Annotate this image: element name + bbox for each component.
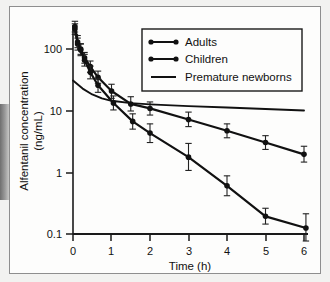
x-tick-label-6: 6 bbox=[301, 245, 307, 257]
y-axis-title-line2: (ng/mL) bbox=[32, 111, 44, 151]
x-tick-label-5: 5 bbox=[263, 245, 269, 257]
x-tick-label-2: 2 bbox=[147, 245, 153, 257]
y-axis-title-line1: Alfentanil concentration bbox=[18, 71, 30, 191]
pharmacokinetics-line-chart: 100 10 1 0.1 0 1 2 3 4 5 6 T bbox=[10, 7, 320, 273]
figure-container: 100 10 1 0.1 0 1 2 3 4 5 6 T bbox=[0, 0, 330, 282]
chart-panel: 100 10 1 0.1 0 1 2 3 4 5 6 T bbox=[9, 6, 321, 274]
x-tick-label-1: 1 bbox=[108, 245, 114, 257]
legend-label-premature-newborns: Premature newborns bbox=[185, 71, 292, 83]
x-tick-label-4: 4 bbox=[224, 245, 230, 257]
x-tick-label-0: 0 bbox=[70, 245, 76, 257]
x-tick-label-3: 3 bbox=[186, 245, 192, 257]
y-tick-label-1: 1 bbox=[56, 167, 62, 179]
x-axis-title: Time (h) bbox=[169, 260, 212, 272]
y-axis-ticks: 100 10 1 0.1 bbox=[44, 43, 73, 240]
y-tick-label-10: 10 bbox=[50, 105, 62, 117]
legend-label-children: Children bbox=[185, 53, 228, 65]
y-tick-label-100: 100 bbox=[44, 43, 62, 55]
y-tick-label-0.1: 0.1 bbox=[47, 228, 62, 240]
chart-legend: Adults Children Premature newborns bbox=[142, 29, 302, 91]
x-axis-ticks: 0 1 2 3 4 5 6 bbox=[70, 234, 307, 257]
legend-label-adults: Adults bbox=[185, 36, 217, 48]
